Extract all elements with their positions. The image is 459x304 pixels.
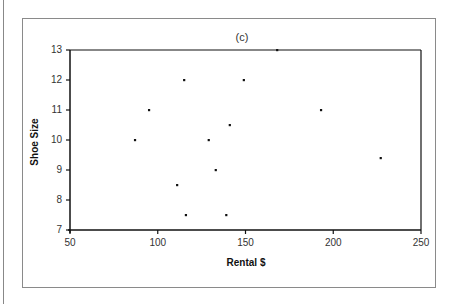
data-point bbox=[276, 49, 278, 51]
y-tick-label: 11 bbox=[52, 104, 63, 115]
data-point bbox=[229, 124, 231, 126]
scatter-chart: (c) 78910111213 50100150200250 Rental $ … bbox=[0, 0, 459, 304]
y-axis-label: Shoe Size bbox=[29, 118, 40, 166]
chart-title: (c) bbox=[236, 31, 249, 43]
y-tick-label: 8 bbox=[56, 194, 62, 205]
x-axis: 50100150200250 bbox=[64, 230, 429, 248]
plot-area bbox=[68, 50, 421, 233]
data-point bbox=[148, 109, 150, 111]
data-point bbox=[225, 214, 227, 216]
data-point bbox=[380, 157, 382, 159]
x-axis-label: Rental $ bbox=[227, 257, 266, 268]
data-point bbox=[134, 139, 136, 141]
data-point bbox=[243, 79, 245, 81]
x-tick-label: 150 bbox=[237, 237, 254, 248]
y-tick-label: 13 bbox=[51, 44, 63, 55]
y-tick-label: 7 bbox=[56, 224, 62, 235]
data-point bbox=[320, 109, 322, 111]
y-tick-label: 12 bbox=[51, 74, 63, 85]
x-tick-label: 100 bbox=[149, 237, 166, 248]
y-tick-label: 9 bbox=[56, 164, 62, 175]
data-point bbox=[208, 139, 210, 141]
data-point bbox=[176, 184, 178, 186]
data-point bbox=[183, 79, 185, 81]
y-axis: 78910111213 bbox=[51, 44, 70, 235]
y-tick-label: 10 bbox=[51, 134, 63, 145]
data-point bbox=[185, 214, 187, 216]
x-tick-label: 50 bbox=[64, 237, 76, 248]
data-point bbox=[215, 169, 217, 171]
x-tick-label: 200 bbox=[325, 237, 342, 248]
x-tick-label: 250 bbox=[413, 237, 430, 248]
data-points bbox=[134, 49, 382, 216]
